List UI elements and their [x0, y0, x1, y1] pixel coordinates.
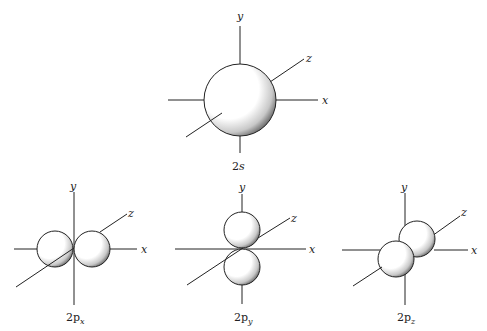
lobe-right [74, 231, 110, 267]
orbital-2py: y x z 2py [175, 181, 316, 326]
caption-2s: 2s [232, 160, 245, 173]
z-axis [100, 214, 127, 232]
z-axis [432, 216, 460, 236]
label-x: x [309, 243, 316, 256]
orbital-2s: y x z 2s [168, 10, 329, 173]
label-x: x [322, 94, 329, 107]
label-x: x [141, 243, 148, 256]
label-y: y [236, 10, 244, 23]
sphere-2s [204, 64, 276, 136]
label-z: z [127, 207, 134, 220]
label-z: z [290, 212, 297, 225]
orbital-2pz: y x z 2pz [342, 181, 478, 326]
lobe-left [37, 231, 73, 267]
label-z: z [460, 206, 467, 219]
orbital-diagram: y x z 2s y x z 2px y x z 2py [0, 0, 487, 331]
label-y: y [69, 180, 77, 193]
caption-2py: 2py [234, 311, 253, 326]
label-x: x [471, 244, 478, 257]
label-z: z [305, 52, 312, 65]
z-axis-neg [353, 267, 382, 286]
caption-2pz: 2pz [397, 311, 416, 326]
lobe-bottom [224, 249, 260, 285]
label-y: y [238, 181, 246, 194]
label-y: y [400, 181, 408, 194]
z-axis [270, 59, 304, 82]
z-axis [258, 218, 290, 238]
caption-2px: 2px [66, 311, 85, 326]
lobe-front [378, 241, 414, 277]
lobe-top [224, 212, 260, 248]
orbital-2px: y x z 2px [14, 180, 148, 326]
